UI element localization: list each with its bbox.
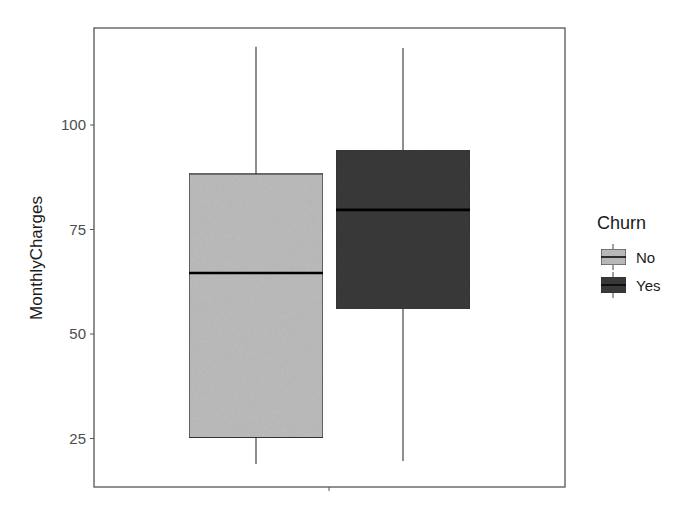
legend-item-yes: Yes <box>601 272 660 298</box>
boxplot-chart: 255075100 MonthlyCharges Churn NoYes <box>0 0 694 508</box>
y-tick-label: 50 <box>69 325 86 342</box>
y-tick-label: 75 <box>69 221 86 238</box>
y-tick-label: 100 <box>61 116 86 133</box>
y-tick-label: 25 <box>69 430 86 447</box>
iqr-box <box>336 150 470 309</box>
iqr-box <box>189 174 323 438</box>
y-axis: 255075100 <box>61 116 94 447</box>
y-axis-title: MonthlyCharges <box>27 196 46 320</box>
legend-item-no: No <box>601 244 655 270</box>
legend-label: No <box>636 249 655 266</box>
legend: Churn NoYes <box>597 213 660 298</box>
legend-label: Yes <box>636 277 660 294</box>
plot-panel <box>94 28 565 487</box>
legend-title: Churn <box>597 213 646 233</box>
